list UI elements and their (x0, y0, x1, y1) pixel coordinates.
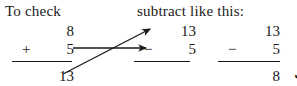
column-subtraction-solved: 13 − 5 8 ✓ (218, 24, 288, 86)
heading-to-check: To check (5, 4, 61, 19)
column-addition-check: 8 + 5 13 (12, 24, 82, 86)
operand-row: − 5 (218, 42, 288, 60)
result-row: 13 (12, 69, 82, 86)
math-worksheet-figure: To check subtract like this: 8 + 5 13 13… (0, 0, 297, 86)
operand-row: + 5 (12, 42, 82, 60)
operand-value: 5 (273, 42, 289, 57)
operand-row: 13 (134, 24, 204, 42)
operand-value: 8 (67, 24, 83, 39)
operand-value: 13 (181, 24, 204, 39)
operand-row: 13 (218, 24, 288, 42)
column-subtraction-problem: 13 − 5 (134, 24, 204, 86)
horizontal-rule (12, 61, 72, 62)
operand-row: 8 (12, 24, 82, 42)
checkmark-icon: ✓ (293, 67, 297, 83)
operand-value: 13 (265, 24, 288, 39)
operator-symbol: − (228, 42, 236, 57)
result-row (134, 69, 204, 86)
operator-symbol: + (22, 42, 30, 57)
horizontal-rule (134, 61, 190, 62)
operand-value: 5 (189, 42, 205, 57)
result-value: 13 (59, 69, 82, 84)
heading-subtract-like-this: subtract like this: (137, 4, 244, 19)
result-row: 8 ✓ (218, 69, 288, 86)
operand-row: − 5 (134, 42, 204, 60)
operator-symbol: − (144, 42, 152, 57)
result-value: 8 (273, 69, 289, 84)
horizontal-rule (218, 61, 280, 62)
operand-value: 5 (67, 42, 83, 57)
